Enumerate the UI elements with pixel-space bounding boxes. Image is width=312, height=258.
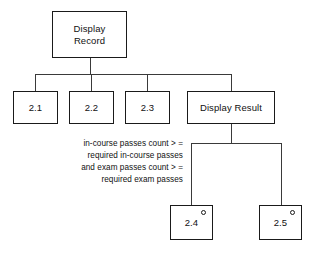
- node-2-5-label: 2.5: [274, 217, 288, 229]
- node-display-result[interactable]: Display Result: [187, 91, 275, 124]
- node-2-4-label: 2.4: [185, 217, 199, 229]
- edge-display-result-to-bus: [231, 124, 232, 143]
- edge-bus-to-node-22: [91, 74, 92, 92]
- node-display-record[interactable]: Display Record: [52, 11, 127, 58]
- node-2-4[interactable]: 2.4: [170, 205, 213, 240]
- edge-bus-to-node-24: [191, 143, 192, 206]
- node-2-1-label: 2.1: [29, 102, 43, 114]
- condition-annotation: in-course passes count > = required in-c…: [28, 138, 183, 186]
- edge-root-to-bus: [90, 58, 91, 74]
- node-2-5[interactable]: 2.5: [259, 205, 302, 240]
- node-2-1[interactable]: 2.1: [13, 91, 58, 124]
- node-2-2-label: 2.2: [85, 102, 99, 114]
- node-2-3[interactable]: 2.3: [125, 91, 170, 124]
- edge-bus-to-node-23: [147, 74, 148, 92]
- node-display-result-label: Display Result: [200, 102, 262, 114]
- edge-bottom-bus: [191, 143, 281, 144]
- node-display-record-label: Display Record: [74, 23, 106, 46]
- edge-top-bus: [35, 74, 231, 75]
- structure-chart-diagram: Display Record 2.1 2.2 2.3 Display Resul…: [0, 0, 312, 258]
- edge-bus-to-display-result: [231, 74, 232, 92]
- node-2-3-label: 2.3: [141, 102, 155, 114]
- edge-bus-to-node-21: [35, 74, 36, 92]
- node-2-2[interactable]: 2.2: [69, 91, 114, 124]
- edge-bus-to-node-25: [281, 143, 282, 206]
